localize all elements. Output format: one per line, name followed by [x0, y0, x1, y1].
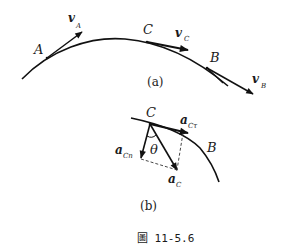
theta-arc: [147, 135, 156, 137]
figure-caption: 圖 11-5.6: [137, 232, 194, 245]
vector-label-vb: v: [252, 72, 260, 86]
dashed-line-2: [177, 133, 183, 170]
vector-sub-acn: Cn: [123, 152, 133, 160]
point-label-a: A: [33, 42, 43, 57]
panel-a: A C B v A v C v B (a): [22, 11, 266, 94]
panel-b: C B θ a Cτ a Cn a C (b): [115, 105, 219, 213]
vector-sub-vc: C: [184, 35, 190, 43]
vector-label-ac: a: [168, 172, 176, 186]
vector-sub-ac: C: [176, 181, 182, 189]
vector-sub-vb: B: [260, 82, 266, 90]
vector-label-vc: v: [175, 26, 183, 40]
trajectory-curve-a: [22, 39, 228, 86]
kinematics-diagram: A C B v A v C v B (a) C B θ a Cτ a Cn a …: [0, 0, 283, 251]
vector-sub-va: A: [75, 22, 81, 30]
vector-sub-act: Cτ: [188, 122, 197, 130]
point-label-c: C: [143, 22, 153, 37]
panel-label-a: (a): [147, 75, 164, 89]
point-label-b-b: B: [206, 140, 217, 155]
vector-label-va: v: [68, 11, 76, 25]
point-label-c-b: C: [146, 105, 156, 120]
vector-label-acn: a: [115, 143, 123, 157]
vector-label-act: a: [180, 113, 188, 127]
point-label-b: B: [209, 50, 220, 65]
theta-label: θ: [150, 142, 158, 157]
velocity-arrow-b: [207, 68, 253, 94]
panel-label-b: (b): [140, 199, 157, 213]
normal-accel-arrow: [141, 124, 150, 158]
